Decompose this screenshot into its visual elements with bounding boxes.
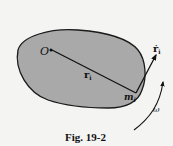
angular-velocity-label: ω xyxy=(153,105,160,114)
figure-caption: Fig. 19-2 xyxy=(65,131,106,143)
velocity-label: ṙi xyxy=(153,43,161,55)
rigid-body-diagram: O ri mi ṙi ω Fig. 19-2 xyxy=(0,0,173,146)
origin-label: O xyxy=(40,45,49,58)
